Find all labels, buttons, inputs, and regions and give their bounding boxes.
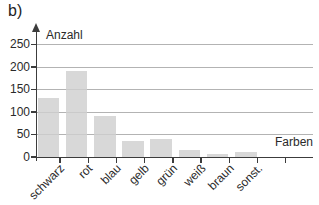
bar-rot xyxy=(66,71,88,157)
x-axis-tick-4 xyxy=(172,158,174,163)
y-axis-tick-150 xyxy=(31,89,36,91)
y-tick-label-0: 0 xyxy=(3,150,30,164)
gridline-250 xyxy=(37,44,314,45)
bar-grün xyxy=(150,139,172,157)
y-axis-arrow-icon xyxy=(32,23,40,32)
y-axis-tick-200 xyxy=(31,66,36,68)
y-tick-label-150: 150 xyxy=(3,82,30,96)
category-label-rot: rot xyxy=(77,162,96,181)
bar-gelb xyxy=(122,141,144,157)
x-axis-tick-0 xyxy=(59,158,61,163)
category-label-grün: grün xyxy=(154,162,180,188)
category-label-weiß: weiß xyxy=(181,162,208,189)
category-label-blau: blau xyxy=(99,162,124,187)
x-axis-tick-1 xyxy=(88,158,90,163)
bar-blau xyxy=(94,116,116,157)
y-tick-label-200: 200 xyxy=(3,60,30,74)
category-label-braun: braun xyxy=(206,162,237,193)
figure: b) Anzahl Farben 050100150200250schwarzr… xyxy=(0,0,319,205)
y-axis-title: Anzahl xyxy=(46,28,83,42)
y-axis-tick-0 xyxy=(31,156,36,158)
y-tick-label-250: 250 xyxy=(3,37,30,51)
x-axis-tick-5 xyxy=(200,158,202,163)
y-tick-label-50: 50 xyxy=(3,127,30,141)
y-axis-tick-50 xyxy=(31,134,36,136)
x-axis-tick-2 xyxy=(116,158,118,163)
y-axis-tick-250 xyxy=(31,44,36,46)
y-tick-label-100: 100 xyxy=(3,105,30,119)
y-axis-tick-100 xyxy=(31,111,36,113)
category-label-schwarz: schwarz xyxy=(27,162,67,202)
bar-schwarz xyxy=(38,98,60,157)
bar-braun xyxy=(207,154,229,156)
x-axis-tick-3 xyxy=(144,158,146,163)
x-axis-tick-7 xyxy=(257,158,259,163)
bar-weiß xyxy=(179,150,201,157)
x-axis-tick-6 xyxy=(229,158,231,163)
bar-sonst. xyxy=(235,152,257,157)
gridline-200 xyxy=(37,67,314,68)
bar-chart: Anzahl Farben 050100150200250schwarzrotb… xyxy=(0,0,319,205)
category-label-gelb: gelb xyxy=(127,162,152,187)
category-label-sonst.: sonst. xyxy=(233,162,265,194)
x-axis-tick-8 xyxy=(285,158,287,163)
x-axis-title: Farben xyxy=(275,135,313,149)
